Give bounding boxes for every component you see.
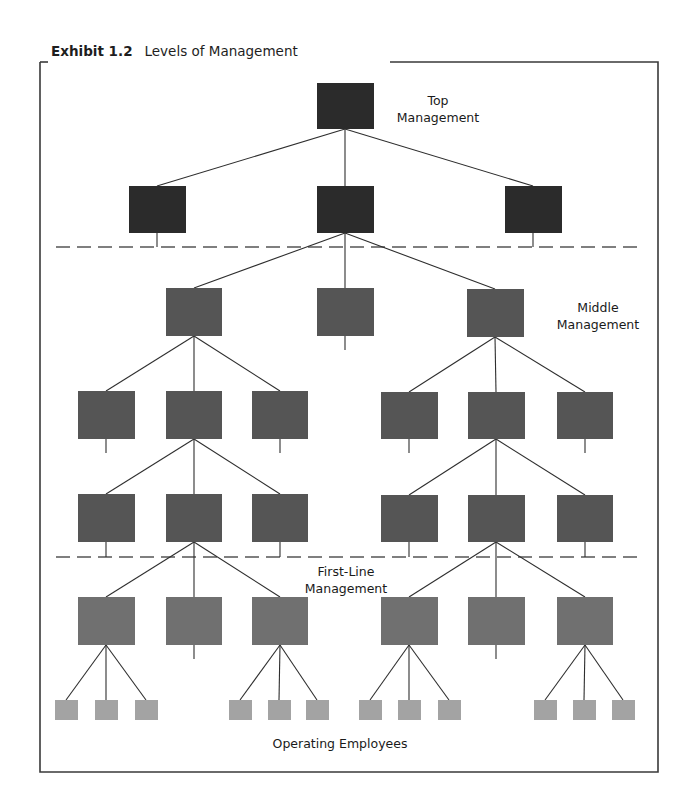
operating-box-4 bbox=[229, 700, 252, 720]
operating-box-3 bbox=[135, 700, 158, 720]
middle-lower-box-4 bbox=[381, 392, 438, 439]
first-line-box-6 bbox=[557, 597, 613, 645]
middle-base-box-3 bbox=[252, 494, 308, 542]
top-box-1 bbox=[317, 83, 374, 129]
operating-box-11 bbox=[573, 700, 596, 720]
first-line-management-label: First-Line Management bbox=[296, 563, 396, 597]
first-line-box-4 bbox=[381, 597, 438, 645]
operating-box-1 bbox=[55, 700, 78, 720]
middle-base-box-2 bbox=[166, 494, 222, 542]
operating-box-12 bbox=[612, 700, 635, 720]
operating-box-5 bbox=[268, 700, 291, 720]
middle-base-box-4 bbox=[381, 495, 438, 542]
operating-box-9 bbox=[438, 700, 461, 720]
middle-label-line2: Management bbox=[548, 316, 648, 333]
operating-employees-label: Operating Employees bbox=[255, 735, 425, 752]
top-second-box-1 bbox=[129, 186, 186, 233]
top-management-label: Top Management bbox=[393, 92, 483, 126]
first-line-box-5 bbox=[468, 597, 525, 645]
middle-management-label: Middle Management bbox=[548, 299, 648, 333]
first-line-box-1 bbox=[78, 597, 135, 645]
middle-upper-box-1 bbox=[166, 288, 222, 336]
middle-label-line1: Middle bbox=[548, 299, 648, 316]
middle-base-box-5 bbox=[468, 495, 525, 542]
first-line-box-2 bbox=[166, 597, 222, 645]
operating-box-2 bbox=[95, 700, 118, 720]
exhibit-title-text: Levels of Management bbox=[145, 43, 298, 59]
top-second-box-3 bbox=[505, 186, 562, 233]
operating-box-7 bbox=[359, 700, 382, 720]
levels-of-management-diagram bbox=[0, 0, 680, 808]
operating-box-6 bbox=[306, 700, 329, 720]
middle-base-box-1 bbox=[78, 494, 135, 542]
exhibit-title: Exhibit 1.2Levels of Management bbox=[45, 43, 304, 59]
top-label-line1: Top bbox=[393, 92, 483, 109]
first-line-box-3 bbox=[252, 597, 308, 645]
operating-box-8 bbox=[398, 700, 421, 720]
middle-lower-box-5 bbox=[468, 392, 525, 439]
middle-lower-box-6 bbox=[557, 392, 613, 439]
top-label-line2: Management bbox=[393, 109, 483, 126]
top-second-box-2 bbox=[317, 186, 374, 233]
middle-lower-box-1 bbox=[78, 391, 135, 439]
middle-lower-box-3 bbox=[252, 391, 308, 439]
middle-upper-box-2 bbox=[317, 288, 374, 336]
middle-base-box-6 bbox=[557, 495, 613, 542]
operating-box-10 bbox=[534, 700, 557, 720]
exhibit-number: Exhibit 1.2 bbox=[51, 43, 133, 59]
first-line-label-line2: Management bbox=[296, 580, 396, 597]
middle-lower-box-2 bbox=[166, 391, 222, 439]
middle-upper-box-3 bbox=[467, 289, 524, 337]
first-line-label-line1: First-Line bbox=[296, 563, 396, 580]
